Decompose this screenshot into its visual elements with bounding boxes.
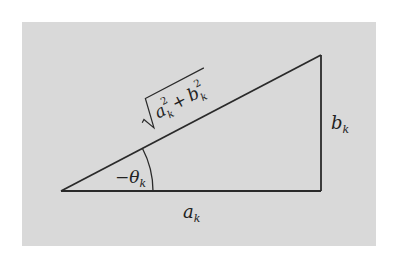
adjacent-label: ak	[183, 201, 201, 225]
opposite-label: bk	[331, 112, 350, 136]
triangle-diagram: −θk ak bk ak2+bk2	[0, 0, 395, 259]
hypotenuse-label: ak2+bk2	[133, 68, 218, 133]
hypotenuse-side	[61, 55, 321, 191]
angle-label: −θk	[115, 167, 146, 190]
